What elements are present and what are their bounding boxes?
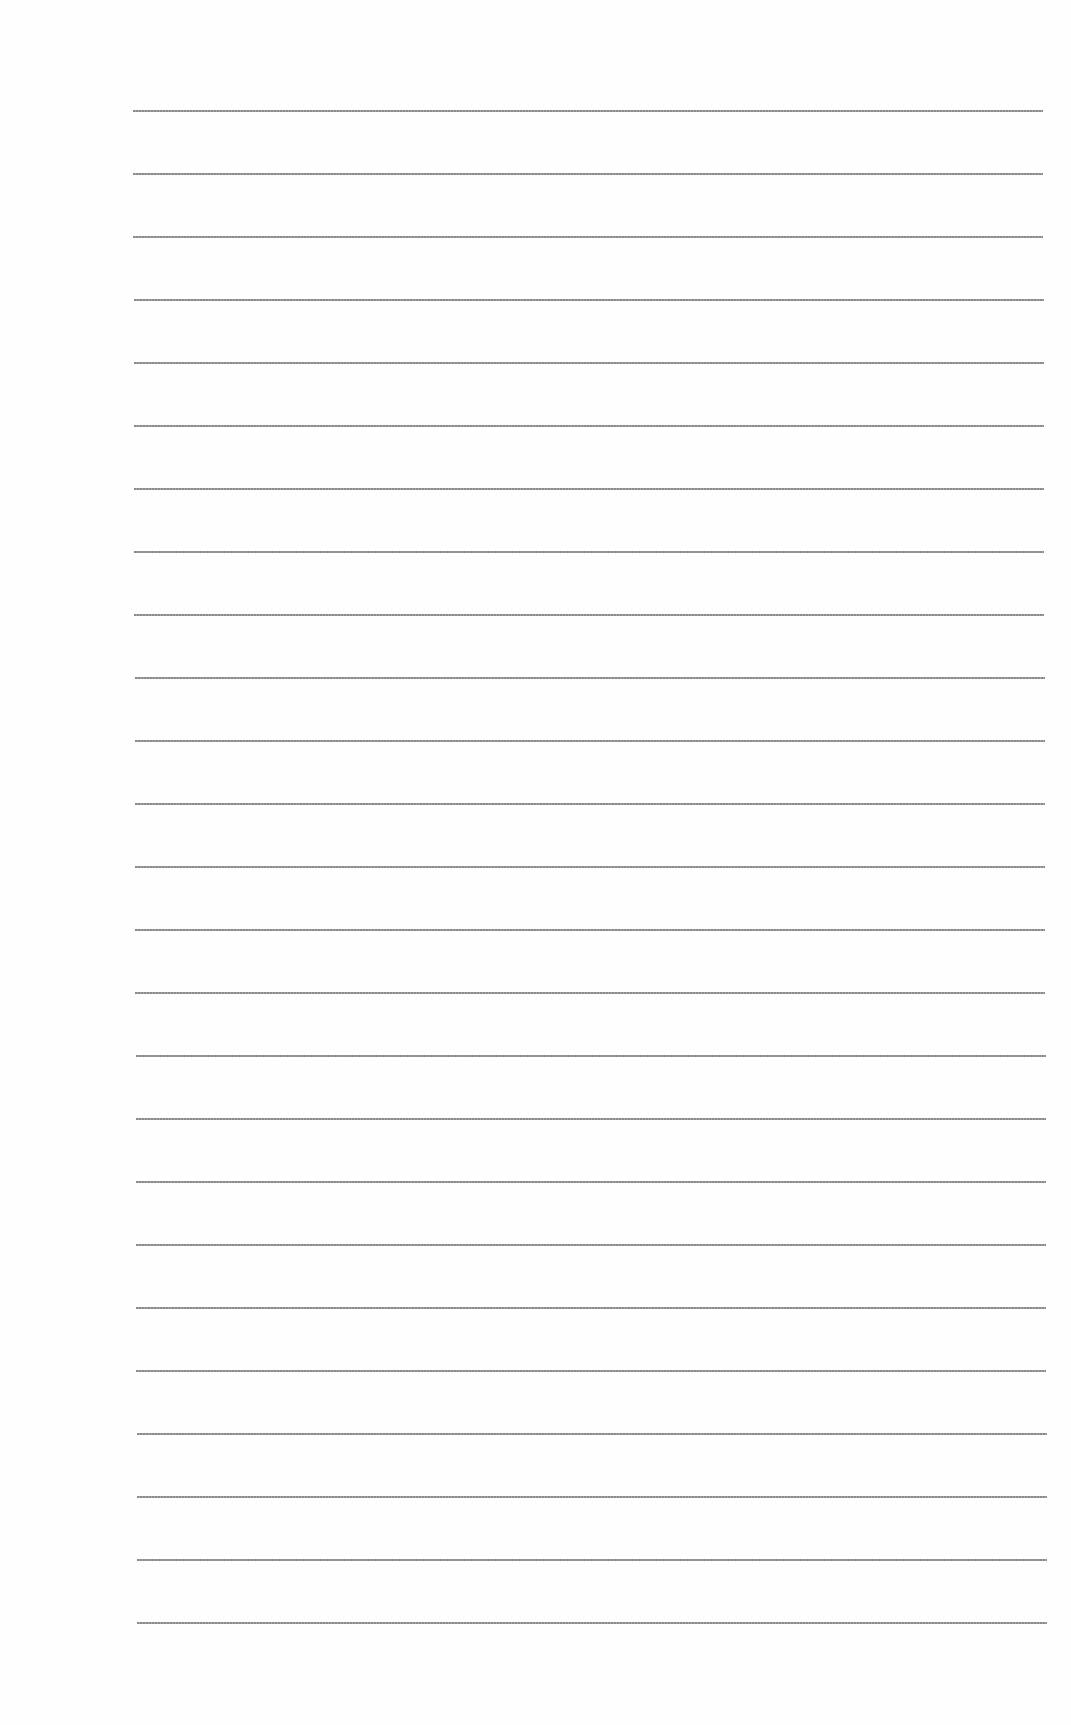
ruled-line — [136, 1181, 1046, 1183]
ruled-line — [133, 236, 1043, 238]
ruled-line — [135, 929, 1045, 931]
ruled-line — [135, 677, 1045, 679]
ruled-line — [133, 173, 1043, 175]
ruled-line — [134, 614, 1044, 616]
ruled-line — [134, 299, 1044, 301]
ruled-line — [135, 740, 1045, 742]
ruled-line — [136, 1055, 1046, 1057]
ruled-line — [133, 110, 1043, 112]
ruled-line — [137, 1496, 1047, 1498]
ruled-line — [136, 1307, 1046, 1309]
ruled-line — [136, 1244, 1046, 1246]
ruled-line — [137, 1622, 1047, 1624]
ruled-line — [135, 803, 1045, 805]
ruled-line — [134, 425, 1044, 427]
ruled-line — [135, 866, 1045, 868]
ruled-line — [134, 362, 1044, 364]
ruled-line — [137, 1559, 1047, 1561]
ruled-line — [137, 1433, 1047, 1435]
ruled-page — [0, 0, 1071, 1725]
ruled-line — [134, 488, 1044, 490]
ruled-line — [136, 1118, 1046, 1120]
ruled-line — [136, 1370, 1046, 1372]
ruled-line — [135, 992, 1045, 994]
ruled-line — [134, 551, 1044, 553]
